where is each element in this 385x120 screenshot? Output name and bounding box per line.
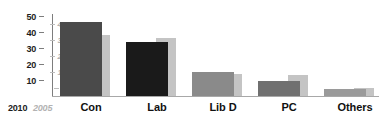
x-label-lab: Lab <box>126 98 188 116</box>
y-tick-left-40-label: 40 <box>26 28 36 38</box>
x-axis-baseline <box>52 96 379 97</box>
bar-2010-libd <box>192 72 234 96</box>
bar-2010-con <box>60 22 102 96</box>
x-axis-category-labels: Con Lab Lib D PC Others <box>52 98 379 116</box>
y-tick-left-30-label: 30 <box>26 44 36 54</box>
bar-group-lab <box>126 10 188 96</box>
x-label-libd: Lib D <box>192 98 254 116</box>
bar-group-others <box>324 10 385 96</box>
bar-2010-lab <box>126 42 168 96</box>
series-year-keys: 2010 2005 <box>0 100 52 116</box>
x-label-others: Others <box>324 98 385 116</box>
y-tick-left-20-label: 20 <box>26 60 36 70</box>
series-label-2010: 2010 <box>8 100 27 116</box>
y-tick-left-50-label: 50 <box>26 12 36 22</box>
plot-area <box>52 10 379 96</box>
x-label-pc: PC <box>258 98 320 116</box>
bar-2010-others <box>324 89 366 96</box>
series-label-2005: 2005 <box>33 100 52 116</box>
bar-group-libd <box>192 10 254 96</box>
bar-2010-pc <box>258 81 300 97</box>
x-label-con: Con <box>60 98 122 116</box>
dual-axis-bar-chart: 50 40 30 20 10 45 35 25 15 5 <box>0 0 385 120</box>
bar-group-con <box>60 10 122 96</box>
y-tick-left-10-label: 10 <box>26 76 36 86</box>
bar-group-pc <box>258 10 320 96</box>
